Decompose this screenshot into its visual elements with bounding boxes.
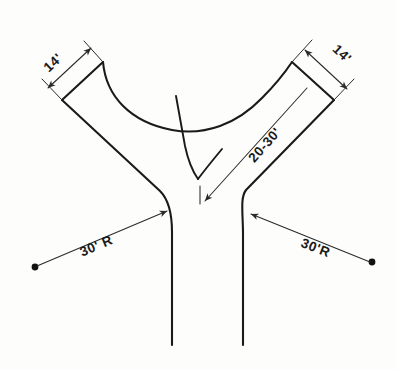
right-arm-outer-edge — [242, 100, 334, 345]
left-radius-center-dot — [32, 264, 39, 271]
junction-inner-right-edge — [198, 149, 222, 179]
left-radius-dimension: 30' R — [32, 211, 167, 270]
right-arm-end-cap — [292, 62, 334, 100]
left-arm-outer-edge — [62, 100, 172, 345]
left-width-label: 14' — [41, 50, 66, 74]
right-dim-ext-line-1 — [292, 40, 312, 62]
drawing-canvas: 14' 14' 20-30' 30' R 30'R — [0, 0, 396, 370]
left-arm-end-cap — [62, 62, 103, 100]
left-dim-ext-line-1 — [42, 79, 62, 100]
right-width-label: 14' — [330, 41, 355, 65]
right-dim-ext-line-2 — [334, 79, 354, 100]
engineering-drawing: 14' 14' 20-30' 30' R 30'R — [0, 0, 396, 370]
junction-inner-left-edge — [176, 96, 198, 179]
right-radius-dimension: 30'R — [251, 214, 375, 265]
throat-length-label: 20-30' — [245, 125, 283, 165]
left-radius-label: 30' R — [78, 232, 115, 259]
right-radius-label: 30'R — [299, 235, 332, 260]
top-central-curve — [103, 62, 292, 132]
